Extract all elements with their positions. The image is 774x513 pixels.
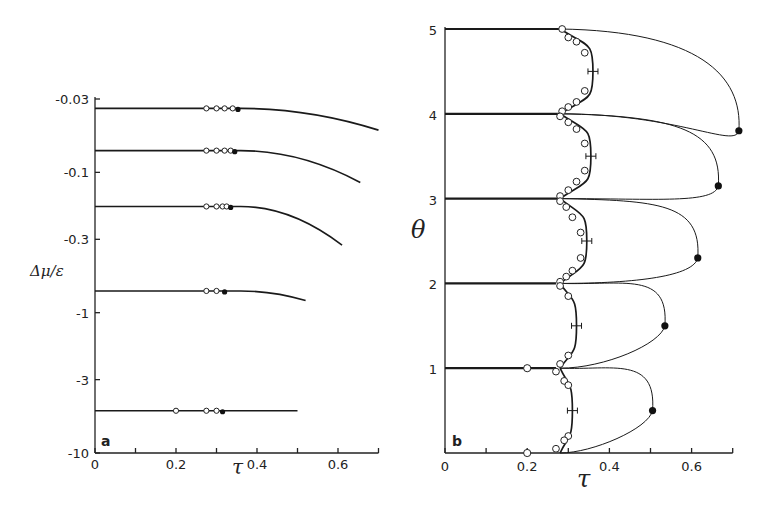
open-marker	[230, 106, 235, 111]
open-marker	[563, 273, 570, 280]
y-tick-label: -0.3	[64, 232, 89, 247]
open-marker	[553, 368, 560, 375]
filled-marker	[649, 407, 656, 414]
open-marker	[573, 126, 580, 133]
open-marker	[563, 204, 570, 211]
y-tick-label: -0.1	[64, 165, 89, 180]
open-marker	[524, 365, 531, 372]
x-tick-label: 0.4	[599, 459, 620, 474]
open-marker	[173, 408, 178, 413]
open-marker	[565, 104, 572, 111]
open-marker	[581, 49, 588, 56]
y-tick-label: -1	[76, 306, 89, 321]
open-marker	[204, 148, 209, 153]
open-marker	[561, 437, 568, 444]
open-marker	[557, 283, 564, 290]
open-marker	[573, 38, 580, 45]
open-marker	[569, 267, 576, 274]
filled-marker	[228, 205, 233, 210]
open-marker	[204, 408, 209, 413]
y-tick-label: 4	[429, 108, 437, 123]
y-axis-label: θ	[411, 216, 426, 244]
y-tick-label: -3	[76, 373, 89, 388]
open-marker	[214, 288, 219, 293]
panel-a-chart: 00.20.40.6-0.03-0.1-0.3-1-3-10τΔμ/ε	[29, 92, 379, 479]
data-line	[95, 206, 342, 245]
outer-loop-curve	[560, 114, 718, 200]
open-marker	[565, 34, 572, 41]
open-marker	[204, 288, 209, 293]
open-marker	[557, 361, 564, 368]
outer-loop-curve	[560, 199, 698, 284]
open-marker	[565, 119, 572, 126]
panel-b-letter: b	[452, 433, 462, 449]
x-tick-label: 0.6	[328, 457, 349, 472]
y-axis-label: Δμ/ε	[29, 262, 64, 280]
filled-marker	[232, 149, 237, 154]
open-marker	[214, 408, 219, 413]
open-marker	[581, 88, 588, 95]
open-marker	[214, 106, 219, 111]
open-marker	[559, 26, 566, 33]
open-marker	[573, 178, 580, 185]
filled-marker	[694, 254, 701, 261]
y-tick-label: 2	[429, 277, 437, 292]
x-tick-label: 0.6	[681, 459, 702, 474]
x-tick-label: 0.2	[517, 459, 538, 474]
y-tick-label: -0.03	[55, 92, 89, 107]
open-marker	[222, 148, 227, 153]
filled-marker	[222, 289, 227, 294]
filled-marker	[735, 127, 742, 134]
open-marker	[204, 106, 209, 111]
open-marker	[581, 167, 588, 174]
open-marker	[565, 293, 572, 300]
filled-marker	[715, 182, 722, 189]
x-axis-label: τ	[577, 465, 591, 493]
y-tick-label: -10	[68, 446, 89, 461]
y-tick-label: 3	[429, 193, 437, 208]
x-axis-label: τ	[232, 455, 244, 479]
open-marker	[577, 229, 584, 236]
open-marker	[573, 99, 580, 106]
open-marker	[581, 140, 588, 147]
open-marker	[557, 198, 564, 205]
y-tick-label: 1	[429, 362, 437, 377]
open-marker	[557, 113, 564, 120]
open-marker	[524, 449, 531, 456]
y-tick-label: 5	[429, 23, 437, 38]
panel-a-letter: a	[101, 433, 110, 449]
data-line	[95, 291, 306, 301]
figure: 00.20.40.6-0.03-0.1-0.3-1-3-10τΔμ/ε 00.2…	[0, 0, 774, 513]
filled-marker	[661, 322, 668, 329]
open-marker	[577, 255, 584, 262]
open-marker	[565, 382, 572, 389]
open-marker	[565, 352, 572, 359]
panel-b-chart: 00.20.40.612345τθ	[411, 23, 742, 493]
open-marker	[214, 204, 219, 209]
filled-marker	[220, 409, 225, 414]
data-line	[95, 151, 360, 183]
x-tick-label: 0.4	[247, 457, 268, 472]
x-tick-label: 0.2	[166, 457, 187, 472]
open-marker	[222, 106, 227, 111]
x-tick-label: 0	[441, 459, 449, 474]
x-tick-label: 0	[91, 457, 99, 472]
open-marker	[214, 148, 219, 153]
filled-marker	[235, 107, 240, 112]
open-marker	[565, 187, 572, 194]
open-marker	[204, 204, 209, 209]
open-marker	[553, 445, 560, 452]
open-marker	[569, 214, 576, 221]
